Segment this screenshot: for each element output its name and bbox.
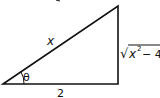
exponent: 2 xyxy=(137,45,141,53)
minus-four: − 4 xyxy=(142,48,160,61)
right-triangle xyxy=(3,6,118,84)
radicand-x: x xyxy=(128,47,137,61)
opposite-label: √ x 2 − 4 xyxy=(120,45,160,61)
radical-sign: √ xyxy=(120,46,129,61)
adjacent-label: 2 xyxy=(57,87,64,98)
triangle-diagram: x θ 2 √ x 2 − 4 xyxy=(0,0,160,98)
hypotenuse-label: x xyxy=(46,34,55,48)
top-mark xyxy=(56,0,60,1)
angle-label: θ xyxy=(23,71,30,84)
